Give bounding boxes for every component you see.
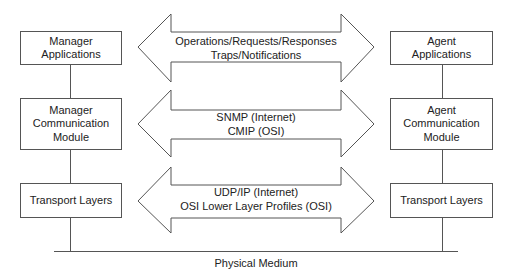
box-label: Applications — [41, 48, 100, 62]
manager-communication-box: Manager Communication Module — [20, 98, 122, 150]
arrow-transport-label: UDP/IP (Internet) OSI Lower Layer Profil… — [171, 186, 341, 213]
box-label: Transport Layers — [400, 194, 483, 208]
arrow-label-line: SNMP (Internet) — [171, 111, 341, 125]
arrow-label-line: Traps/Notifications — [171, 49, 341, 63]
physical-medium-label: Physical Medium — [156, 257, 356, 271]
box-label: Transport Layers — [30, 194, 113, 208]
agent-applications-box: Agent Applications — [390, 31, 493, 65]
arrow-label-line: OSI Lower Layer Profiles (OSI) — [171, 200, 341, 214]
agent-communication-box: Agent Communication Module — [390, 98, 493, 150]
box-label: Agent — [427, 35, 456, 49]
manager-transport-box: Transport Layers — [20, 183, 122, 218]
arrow-label-line: Operations/Requests/Responses — [171, 35, 341, 49]
arrow-applications-label: Operations/Requests/Responses Traps/Noti… — [171, 35, 341, 62]
box-label: Applications — [412, 48, 471, 62]
box-label: Module — [53, 131, 89, 145]
agent-transport-box: Transport Layers — [390, 183, 493, 218]
arrow-label-line: UDP/IP (Internet) — [171, 186, 341, 200]
box-label: Communication — [403, 117, 479, 131]
box-label: Communication — [33, 117, 109, 131]
box-label: Manager — [49, 104, 92, 118]
arrow-label-line: CMIP (OSI) — [171, 125, 341, 139]
manager-applications-box: Manager Applications — [20, 31, 122, 65]
arrow-communication-label: SNMP (Internet) CMIP (OSI) — [171, 111, 341, 138]
box-label: Agent — [427, 104, 456, 118]
box-label: Manager — [49, 35, 92, 49]
box-label: Module — [423, 131, 459, 145]
